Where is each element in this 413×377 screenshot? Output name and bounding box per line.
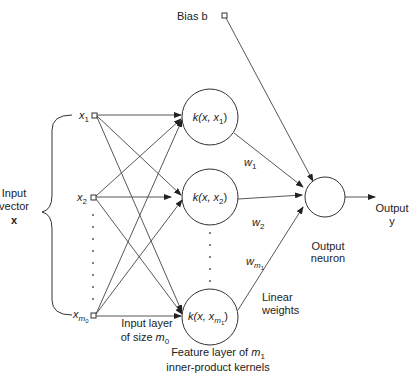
kernel-node-2: k(x, x2) bbox=[182, 169, 238, 225]
output-label-1: Output bbox=[375, 202, 408, 214]
weight-w1: w1 bbox=[244, 156, 257, 171]
output-neuron bbox=[305, 177, 345, 217]
bias-node: Bias b bbox=[177, 10, 227, 22]
kernel-ellipsis bbox=[209, 232, 211, 282]
input-vector-label-2: vector bbox=[0, 200, 29, 212]
feature-layer-label-2: inner-product kernels bbox=[166, 361, 270, 373]
svg-text:x1: x1 bbox=[78, 109, 90, 124]
bias-label: Bias b bbox=[177, 10, 208, 22]
linear-weights-label-2: weights bbox=[261, 304, 300, 316]
output-neuron-label-2: neuron bbox=[311, 252, 345, 264]
input-node-x1: x1 bbox=[78, 109, 97, 124]
output-neuron-label-1: Output bbox=[311, 240, 344, 252]
input-node-x2: x2 bbox=[76, 191, 96, 206]
kernel-node-1: k(x, x1) bbox=[182, 89, 238, 145]
weight-wm1: wm1 bbox=[246, 255, 265, 271]
input-vector-label-3: x bbox=[11, 214, 18, 226]
kernel-node-m1: k(x, xm1) bbox=[182, 289, 238, 345]
input-brace bbox=[42, 115, 72, 315]
input-vector-label-1: Input bbox=[2, 187, 26, 199]
input-kernel-connections bbox=[96, 115, 182, 316]
feature-layer-label-1: Feature layer of m1 bbox=[171, 346, 265, 361]
svg-text:xm0: xm0 bbox=[72, 308, 89, 324]
network-diagram: Bias b Input vector x x1 x2 xm0 bbox=[0, 0, 413, 377]
output-label-2: y bbox=[389, 215, 395, 227]
bias-connection bbox=[226, 18, 313, 181]
input-layer-label-1: Input layer bbox=[121, 317, 173, 329]
input-ellipsis bbox=[92, 214, 94, 300]
input-layer-label-2: of size m0 bbox=[121, 331, 170, 346]
svg-text:x2: x2 bbox=[76, 191, 88, 206]
input-node-xm0: xm0 bbox=[72, 308, 96, 324]
linear-weights-label-1: Linear bbox=[262, 291, 293, 303]
weight-w2: w2 bbox=[252, 216, 265, 231]
